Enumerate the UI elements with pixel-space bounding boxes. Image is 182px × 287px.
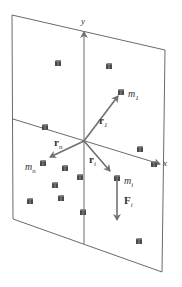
vector-r1-label: r1 [99, 114, 107, 129]
particle-cube-icon [40, 160, 46, 166]
particle-cube-icon [106, 63, 112, 69]
particle-group [27, 60, 157, 244]
vector-rn-label: rn [54, 136, 63, 151]
particle-cube-icon [137, 146, 143, 152]
particle-cube-icon [136, 238, 142, 244]
mass-labels: m1mnmi [25, 88, 139, 189]
particle-cube-icon [62, 165, 68, 171]
particle-cube-icon [114, 175, 120, 181]
particle-cube-icon [151, 161, 157, 167]
y-axis-label: y [80, 16, 85, 26]
mass-i-label: mi [124, 175, 133, 189]
x-axis-label: x [162, 158, 167, 168]
particle-cube-icon [52, 182, 58, 188]
particle-cube-icon [27, 198, 33, 204]
particle-cube-icon [55, 60, 61, 66]
mass-n-label: mn [25, 161, 36, 175]
particle-cube-icon [80, 209, 86, 215]
vector-ri-arrow [84, 141, 110, 171]
vector-Fi-label: Fi [124, 194, 133, 209]
x-axis [13, 119, 160, 164]
particle-cube-icon [42, 124, 48, 130]
mass-1-label: m1 [128, 88, 139, 102]
particle-cube-icon [58, 195, 64, 201]
particle-cube-icon [77, 174, 83, 180]
reference-plane [12, 15, 165, 272]
vector-ri-label: ri [89, 153, 96, 168]
particle-system-diagram: y x r1rnriFi m1mnmi [0, 0, 182, 287]
particle-cube-icon [118, 89, 124, 95]
